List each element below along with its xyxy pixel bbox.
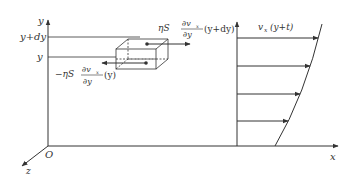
velocity-profile	[237, 22, 322, 146]
viscous-flow-diagram: y x z O y+dy y ηS ∂v x ∂y (y+dy)	[0, 0, 351, 185]
svg-text:(y+t): (y+t)	[270, 22, 294, 32]
level-label-upper: y+dy	[19, 31, 46, 42]
z-axis-label: z	[25, 166, 31, 176]
svg-text:(y+dy): (y+dy)	[204, 24, 235, 34]
svg-text:∂v: ∂v	[82, 65, 91, 74]
svg-text:x: x	[96, 69, 99, 75]
svg-text:∂y: ∂y	[183, 30, 192, 39]
svg-text:x: x	[196, 23, 199, 29]
profile-curve	[275, 24, 322, 146]
profile-label: v x (y+t)	[258, 22, 294, 33]
force-formula-top: ηS ∂v x ∂y (y+dy)	[158, 19, 235, 39]
origin-label: O	[45, 149, 53, 160]
svg-text:x: x	[264, 26, 268, 33]
svg-text:ηS: ηS	[158, 23, 170, 33]
x-axis-label: x	[330, 151, 336, 162]
svg-text:∂y: ∂y	[83, 77, 92, 86]
svg-text:(y): (y)	[104, 70, 116, 80]
svg-text:v: v	[258, 22, 263, 32]
left-axes	[22, 20, 338, 166]
force-formula-bottom: −ηS ∂v x ∂y (y)	[55, 65, 116, 86]
y-axis-label: y	[37, 15, 44, 26]
svg-text:−ηS: −ηS	[55, 69, 74, 79]
level-label-lower: y	[36, 51, 43, 62]
svg-text:∂v: ∂v	[182, 19, 191, 28]
